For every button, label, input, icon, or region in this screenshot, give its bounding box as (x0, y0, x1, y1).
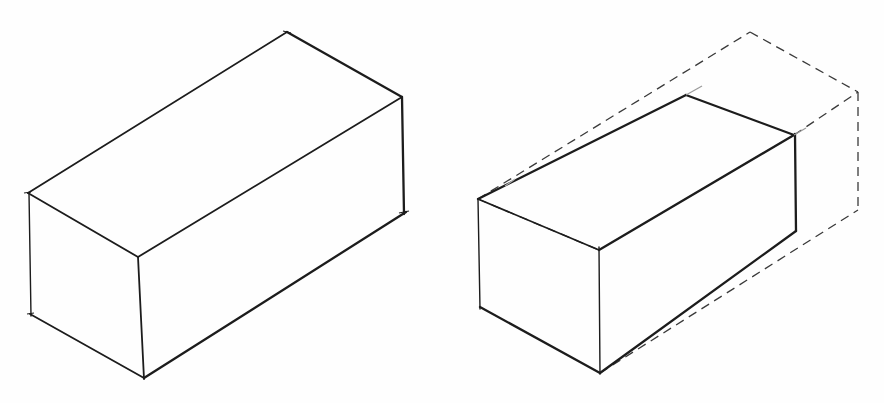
right-box-dashed-outline: Smaller box inside dashed isometric boun… (478, 32, 858, 373)
right-box-right-vertical-edge (795, 134, 796, 231)
right-box-bottom-left-edge (480, 307, 600, 373)
corner-tick (24, 192, 31, 193)
sketch-overshoot-stroke (686, 86, 702, 95)
left-box-right-vertical-edge (402, 97, 404, 214)
sketch-canvas: Hand-drawn isometric sketches of two rec… (0, 0, 884, 403)
right-box-bottom-right-edge (600, 231, 796, 373)
left-box-top-front-left-edge (28, 193, 138, 257)
left-box-top-front-right-edge (138, 97, 402, 257)
dashed-bottom-right-edge (600, 210, 858, 373)
left-box: Isometric rectangular box (solid edges) (24, 31, 409, 379)
left-box-left-vertical-edge (29, 193, 31, 316)
left-box-bottom-left-edge (30, 314, 144, 378)
right-box-front-vertical-edge (599, 247, 600, 374)
corner-tick (27, 313, 34, 314)
dashed-top-front-right-extension (794, 92, 858, 135)
right-box (478, 86, 806, 374)
left-box-top-back-left-edge (28, 32, 287, 193)
sketch-overshoot-stroke (794, 128, 806, 135)
left-box-top-back-right-edge (287, 32, 402, 97)
sketch-drawing: Isometric rectangular box (solid edges) … (0, 0, 884, 403)
right-box-top-front-right-edge (599, 135, 794, 250)
right-box-top-back-right-edge (686, 95, 794, 135)
left-box-bottom-right-edge (144, 212, 406, 378)
dashed-top-back-right-edge (750, 32, 858, 92)
left-box-front-vertical-edge (138, 257, 144, 379)
dashed-top-back-left-edge (478, 32, 750, 199)
right-box-left-vertical-edge (478, 199, 480, 309)
right-box-top-front-left-edge (478, 199, 599, 250)
